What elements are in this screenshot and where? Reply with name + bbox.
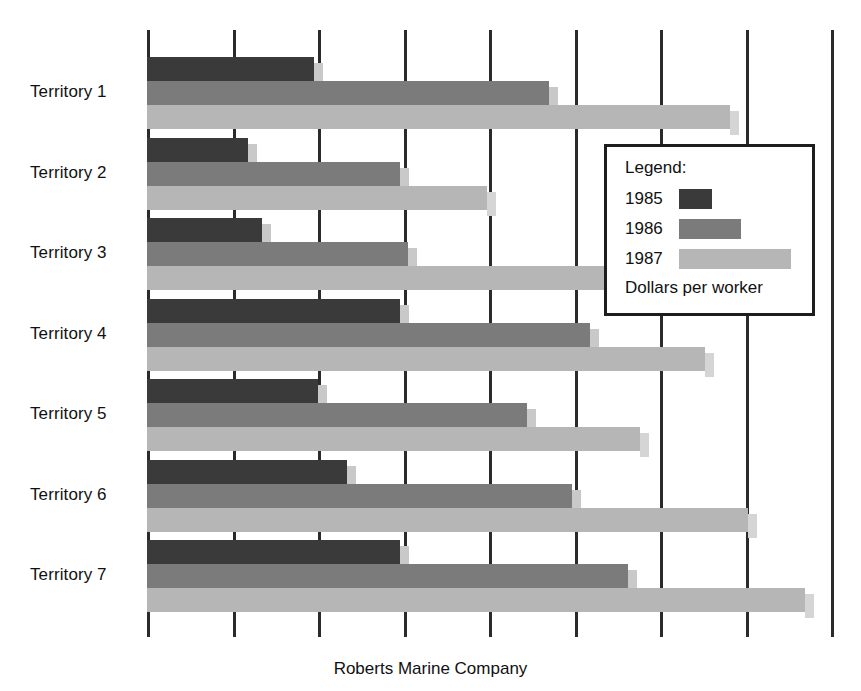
bar-fill — [147, 186, 487, 210]
bar-fill — [147, 57, 314, 81]
bar-territory-2-1986 — [147, 162, 400, 186]
bar-fill — [147, 427, 640, 451]
legend-title: Legend: — [625, 158, 812, 178]
bar-territory-1-1987 — [147, 105, 730, 129]
category-label-6: Territory 7 — [30, 565, 107, 585]
gridline-8 — [831, 30, 834, 637]
bar-fill — [147, 105, 730, 129]
bar-fill — [147, 403, 527, 427]
bar-territory-4-1985 — [147, 299, 400, 323]
bar-fill — [147, 81, 549, 105]
bar-territory-7-1986 — [147, 564, 628, 588]
bar-fill — [147, 588, 805, 612]
legend-item-1987: 1987 — [625, 245, 812, 272]
legend-swatch-1985 — [679, 189, 712, 209]
legend-item-1986: 1986 — [625, 215, 812, 242]
gridline-7 — [746, 30, 749, 637]
bar-fill — [147, 218, 262, 242]
bar-fill — [147, 540, 400, 564]
bar-territory-4-1986 — [147, 323, 590, 347]
bar-fill — [147, 564, 628, 588]
bar-fill — [147, 460, 347, 484]
bar-territory-3-1985 — [147, 218, 262, 242]
bar-shadow — [805, 594, 814, 618]
bar-territory-6-1985 — [147, 460, 347, 484]
bar-shadow — [705, 353, 714, 377]
legend-label-1985: 1985 — [625, 189, 671, 209]
bar-fill — [147, 379, 318, 403]
bar-fill — [147, 508, 748, 532]
legend-label-1986: 1986 — [625, 219, 671, 239]
bar-fill — [147, 299, 400, 323]
bar-shadow — [640, 433, 649, 457]
category-label-2: Territory 3 — [30, 243, 107, 263]
bar-territory-5-1985 — [147, 379, 318, 403]
bar-territory-4-1987 — [147, 347, 705, 371]
category-label-5: Territory 6 — [30, 485, 107, 505]
chart-caption: Roberts Marine Company — [0, 659, 861, 679]
bar-chart: Territory 1 Territory 2 Territory 3 Terr… — [0, 0, 861, 691]
legend-units-label: Dollars per worker — [625, 278, 812, 298]
bar-fill — [147, 484, 572, 508]
category-label-0: Territory 1 — [30, 82, 107, 102]
bar-territory-7-1985 — [147, 540, 400, 564]
bar-territory-2-1987 — [147, 186, 487, 210]
legend-label-1987: 1987 — [625, 249, 671, 269]
bar-territory-5-1986 — [147, 403, 527, 427]
bar-territory-5-1987 — [147, 427, 640, 451]
bar-territory-2-1985 — [147, 138, 248, 162]
bar-fill — [147, 138, 248, 162]
bar-territory-1-1985 — [147, 57, 314, 81]
bar-shadow — [730, 111, 739, 135]
category-label-3: Territory 4 — [30, 324, 107, 344]
bar-fill — [147, 323, 590, 347]
category-label-1: Territory 2 — [30, 163, 107, 183]
bar-territory-7-1987 — [147, 588, 805, 612]
bar-territory-3-1986 — [147, 242, 408, 266]
bar-fill — [147, 242, 408, 266]
bar-shadow — [487, 192, 496, 216]
bar-fill — [147, 347, 705, 371]
bar-territory-6-1987 — [147, 508, 748, 532]
plot-area — [147, 30, 831, 637]
legend-swatch-1986 — [679, 219, 741, 239]
bar-shadow — [748, 514, 757, 538]
bar-fill — [147, 162, 400, 186]
bar-territory-1-1986 — [147, 81, 549, 105]
legend: Legend: 1985 1986 1987 Dollars per worke… — [604, 144, 815, 316]
bar-fill — [147, 266, 605, 290]
legend-item-1985: 1985 — [625, 185, 812, 212]
bar-territory-6-1986 — [147, 484, 572, 508]
category-label-4: Territory 5 — [30, 404, 107, 424]
bar-territory-3-1987 — [147, 266, 605, 290]
legend-swatch-1987 — [679, 249, 791, 269]
